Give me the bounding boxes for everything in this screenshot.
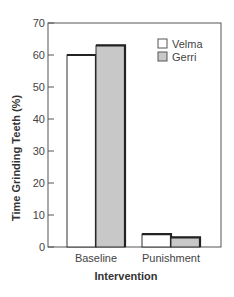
- x-axis-category-labels: BaselinePunishment: [75, 252, 200, 264]
- bar-velma-baseline: [67, 55, 96, 247]
- bar-chart: 010203040506070 BaselinePunishment Velma…: [0, 0, 234, 297]
- legend-swatch-gerri: [158, 52, 167, 61]
- bar-gerri-baseline: [96, 45, 125, 247]
- legend-label-gerri: Gerri: [172, 51, 196, 63]
- y-tick-label: 0: [39, 241, 45, 253]
- x-category-label: Baseline: [75, 252, 117, 264]
- y-tick-label: 60: [33, 49, 45, 61]
- y-tick-label: 70: [33, 17, 45, 29]
- legend: Velma Gerri: [158, 38, 203, 63]
- y-tick-label: 30: [33, 145, 45, 157]
- y-axis-ticks: 010203040506070: [33, 17, 54, 253]
- bar-velma-punishment: [142, 234, 171, 247]
- y-tick-label: 20: [33, 177, 45, 189]
- y-tick-label: 50: [33, 81, 45, 93]
- y-tick-label: 40: [33, 113, 45, 125]
- bars: [67, 45, 200, 247]
- legend-label-velma: Velma: [172, 38, 203, 50]
- legend-swatch-velma: [158, 39, 167, 48]
- bar-gerri-punishment: [171, 237, 200, 247]
- y-tick-label: 10: [33, 209, 45, 221]
- y-axis-title: Time Grinding Teeth (%): [10, 95, 22, 221]
- x-axis-title: Intervention: [95, 270, 158, 282]
- x-category-label: Punishment: [142, 252, 200, 264]
